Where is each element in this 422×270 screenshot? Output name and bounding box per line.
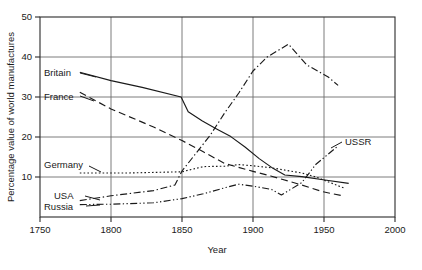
y-axis-ticks: 50 40 30 20 10 xyxy=(21,11,40,182)
xtick-label-1750: 1750 xyxy=(29,224,50,235)
series-annotations: Britain France Germany USA Russia USSR xyxy=(44,67,372,212)
leader-line-germany xyxy=(89,166,101,172)
x-axis-title: Year xyxy=(207,244,226,255)
leader-line-russia xyxy=(86,205,100,206)
xtick-label-1850: 1850 xyxy=(171,224,192,235)
y-axis-title: Percentage value of world manufactures xyxy=(5,32,16,202)
annotation-ussr: USSR xyxy=(345,136,372,147)
series-lines xyxy=(80,44,349,204)
ytick-label-30: 30 xyxy=(21,91,32,102)
ytick-label-50: 50 xyxy=(21,11,32,22)
ytick-label-40: 40 xyxy=(21,51,32,62)
annotation-france: France xyxy=(44,91,74,102)
world-manufactures-line-chart: Britain France Germany USA Russia USSR 5… xyxy=(0,0,422,270)
xtick-label-2000: 2000 xyxy=(384,224,405,235)
xtick-label-1800: 1800 xyxy=(100,224,121,235)
chart-container: Britain France Germany USA Russia USSR 5… xyxy=(0,0,422,270)
annotation-russia: Russia xyxy=(44,201,74,212)
series-line-britain xyxy=(80,72,349,183)
annotation-usa: USA xyxy=(54,190,74,201)
ytick-label-20: 20 xyxy=(21,131,32,142)
series-line-germany xyxy=(80,165,345,189)
plot-border xyxy=(40,17,395,217)
plot-frame xyxy=(40,17,395,217)
x-axis-ticks: 1750 1800 1850 1900 1950 2000 xyxy=(29,217,405,235)
leader-line-britain xyxy=(80,73,96,77)
xtick-label-1950: 1950 xyxy=(313,224,334,235)
xtick-label-1900: 1900 xyxy=(242,224,263,235)
annotation-germany: Germany xyxy=(44,159,83,170)
ytick-label-10: 10 xyxy=(21,171,32,182)
series-line-france xyxy=(80,92,345,196)
annotation-britain: Britain xyxy=(44,67,71,78)
grid-lines xyxy=(40,17,395,217)
